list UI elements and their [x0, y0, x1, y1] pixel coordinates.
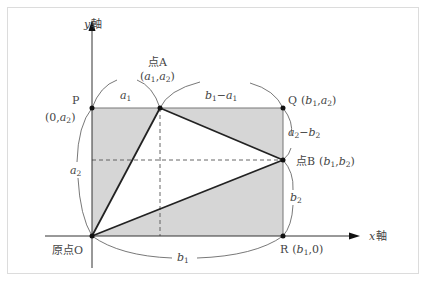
arc-b1-a1-left — [160, 82, 200, 108]
point-A-name: 点A — [148, 56, 168, 69]
arc-a2-lower — [78, 178, 92, 236]
arc-b2 — [283, 160, 293, 190]
arc-b1 — [92, 236, 172, 258]
length-a1: a1 — [120, 89, 131, 103]
length-b1-minus-a1: b1−a1 — [205, 89, 237, 103]
point-P-coord: (0,a2) — [45, 111, 75, 125]
point-R-label: R(b1,0) — [280, 243, 323, 257]
arc-a1 — [92, 80, 117, 108]
arc-b2-lower — [283, 205, 293, 236]
length-a2-minus-b2: a2−b2 — [288, 126, 321, 140]
arc-b1-right — [197, 236, 283, 258]
x-axis-label: x軸 — [369, 229, 387, 243]
x-axis-arrow — [349, 233, 360, 240]
point-B-label: 点B(b1,b2) — [296, 155, 355, 169]
length-b1: b1 — [177, 251, 189, 265]
coordinate-diagram: y軸 x軸 点A (a1,a2) P (0,a2) Q(b1,a2) 点B(b1… — [0, 0, 431, 284]
point-R — [281, 234, 286, 239]
length-a2: a2 — [70, 164, 82, 178]
point-Q-label: Q(b1,a2) — [288, 94, 336, 108]
point-P-name: P — [72, 94, 80, 107]
y-axis-label: y軸 — [83, 17, 102, 31]
origin-label: 原点O — [52, 244, 83, 257]
point-P — [90, 106, 95, 111]
arc-b1-a1-right — [250, 83, 283, 108]
arc-a1-right — [137, 80, 160, 108]
arc-a2 — [77, 108, 92, 162]
point-A-coord: (a1,a2) — [140, 70, 175, 84]
length-b2: b2 — [290, 191, 302, 205]
point-O — [90, 234, 95, 239]
point-B — [281, 158, 286, 163]
point-A — [158, 106, 163, 111]
point-Q — [281, 106, 286, 111]
